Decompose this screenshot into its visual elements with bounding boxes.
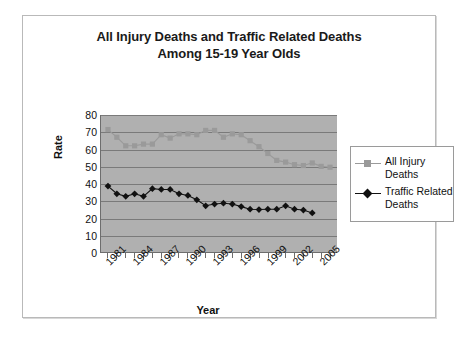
legend: All Injury Deaths Traffic Related Deaths (350, 146, 454, 222)
x-axis-title: Year (23, 304, 393, 316)
data-point-square (150, 142, 155, 147)
y-axis-title: Rate (52, 135, 64, 159)
series-line (108, 130, 330, 168)
data-point-square (212, 128, 217, 133)
x-axis-tick-labels: 198119841987199019931996199920022005 (83, 259, 353, 299)
figure-frame: All Injury Deaths and Traffic Related De… (22, 15, 436, 318)
series-line (108, 186, 312, 213)
data-point-square (230, 131, 235, 136)
data-point-square (274, 158, 279, 163)
y-axis-tick-label: 70 (85, 126, 97, 138)
data-point-diamond (131, 190, 138, 197)
data-point-diamond (167, 186, 174, 193)
data-point-diamond (122, 193, 129, 200)
data-point-diamond (256, 206, 263, 213)
data-point-diamond (300, 207, 307, 214)
y-axis-tick-label: 80 (85, 109, 97, 121)
data-point-diamond (176, 190, 183, 197)
data-point-square (265, 151, 270, 156)
x-axis-tick (205, 253, 206, 258)
data-point-diamond (291, 206, 298, 213)
data-point-diamond (309, 210, 316, 217)
data-point-square (327, 165, 332, 170)
data-point-diamond (282, 202, 289, 209)
data-point-diamond (158, 186, 165, 193)
data-point-square (247, 138, 252, 143)
y-axis-tick-label: 60 (85, 144, 97, 156)
legend-label: All Injury Deaths (385, 155, 455, 181)
y-axis-tick-label: 40 (85, 178, 97, 190)
data-point-square (132, 143, 137, 148)
data-series-layer (101, 115, 337, 252)
data-point-square (221, 135, 226, 140)
data-point-diamond (193, 196, 200, 203)
data-point-square (256, 144, 261, 149)
data-point-square (292, 162, 297, 167)
data-point-diamond (273, 206, 280, 213)
x-axis-tick (312, 253, 313, 258)
data-point-square (283, 160, 288, 165)
data-point-diamond (229, 201, 236, 208)
data-point-square (114, 135, 119, 140)
data-point-diamond (264, 206, 271, 213)
data-point-square (239, 132, 244, 137)
data-point-square (168, 136, 173, 141)
data-point-diamond (202, 202, 209, 209)
data-point-square (123, 143, 128, 148)
legend-marker-diamond-icon (355, 189, 381, 198)
data-point-square (159, 132, 164, 137)
data-point-square (141, 142, 146, 147)
data-point-square (301, 163, 306, 168)
y-axis-tick-labels: 01020304050607080 (75, 108, 97, 260)
legend-label: Traffic Related Deaths (385, 185, 455, 211)
y-axis-tick-label: 0 (91, 247, 97, 259)
data-point-square (185, 131, 190, 136)
data-point-square (176, 131, 181, 136)
data-point-diamond (211, 201, 218, 208)
chart-title-line-2: Among 15-19 Year Olds (23, 45, 435, 62)
data-point-square (310, 160, 315, 165)
chart-title-line-1: All Injury Deaths and Traffic Related De… (96, 29, 361, 44)
data-point-square (105, 127, 110, 132)
data-point-diamond (185, 192, 192, 199)
data-point-square (194, 132, 199, 137)
y-axis-tick-label: 50 (85, 161, 97, 173)
y-axis-tick-label: 10 (85, 230, 97, 242)
data-point-square (203, 128, 208, 133)
data-point-square (319, 164, 324, 169)
y-axis-tick-label: 30 (85, 195, 97, 207)
y-axis-tick-label: 20 (85, 213, 97, 225)
data-point-diamond (238, 203, 245, 210)
data-point-diamond (220, 200, 227, 207)
legend-marker-square-icon (355, 159, 381, 168)
chart-title: All Injury Deaths and Traffic Related De… (23, 28, 435, 62)
data-point-diamond (247, 206, 254, 213)
plot-area (100, 115, 337, 253)
